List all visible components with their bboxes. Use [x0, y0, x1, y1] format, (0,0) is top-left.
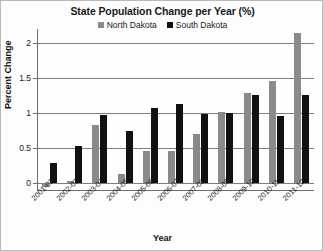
- legend-swatch-north-dakota: [98, 22, 104, 28]
- bar-groups: [37, 29, 314, 191]
- bar-south-dakota[interactable]: [151, 108, 158, 183]
- bar-group: [37, 29, 62, 191]
- bar-south-dakota[interactable]: [176, 104, 183, 183]
- bar-group: [138, 29, 163, 191]
- bar-south-dakota[interactable]: [75, 146, 82, 183]
- bar-group: [213, 29, 238, 191]
- legend-swatch-south-dakota: [167, 22, 173, 28]
- chart-container: State Population Change per Year (%) Nor…: [0, 0, 323, 251]
- bar-south-dakota[interactable]: [277, 116, 284, 182]
- y-tick-label: 1: [26, 108, 31, 118]
- bar-north-dakota[interactable]: [269, 81, 276, 182]
- x-axis-labels: 2001-022002-032003-042004-052005-062006-…: [37, 193, 314, 233]
- bar-south-dakota[interactable]: [126, 131, 133, 183]
- bar-north-dakota[interactable]: [92, 125, 99, 182]
- bar-group: [188, 29, 213, 191]
- plot-area: 00.511.52: [37, 29, 314, 191]
- x-axis-title: Year: [1, 233, 323, 243]
- bar-group: [62, 29, 87, 191]
- y-tick-label: 1.5: [19, 73, 31, 83]
- y-axis-title: Percent Change: [3, 40, 13, 109]
- bar-group: [87, 29, 112, 191]
- bar-north-dakota[interactable]: [244, 93, 251, 183]
- bar-group: [163, 29, 188, 191]
- bar-north-dakota[interactable]: [294, 33, 301, 183]
- chart-title: State Population Change per Year (%): [1, 5, 323, 17]
- y-tick-label: 0: [26, 178, 31, 188]
- bar-group: [239, 29, 264, 191]
- bar-group: [264, 29, 289, 191]
- bar-south-dakota[interactable]: [252, 95, 259, 182]
- bar-south-dakota[interactable]: [302, 95, 309, 182]
- y-tick-label: 2: [26, 38, 31, 48]
- y-tick-label: 0.5: [19, 143, 31, 153]
- bar-north-dakota[interactable]: [218, 112, 225, 183]
- bar-north-dakota[interactable]: [193, 134, 200, 183]
- x-label-cell: 2011-12: [289, 193, 314, 233]
- bar-south-dakota[interactable]: [201, 114, 208, 182]
- bar-group: [289, 29, 314, 191]
- bar-group: [113, 29, 138, 191]
- bar-south-dakota[interactable]: [100, 115, 107, 183]
- bar-south-dakota[interactable]: [226, 113, 233, 183]
